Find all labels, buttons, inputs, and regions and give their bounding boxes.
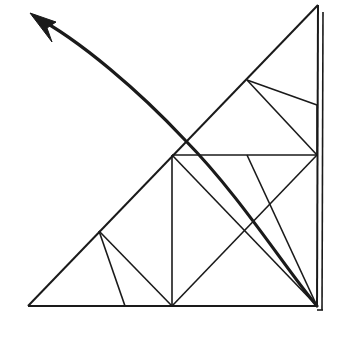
geometry-figure — [0, 0, 340, 338]
triangle-right-edge-shadow — [322, 12, 323, 310]
figure-background — [0, 0, 340, 338]
